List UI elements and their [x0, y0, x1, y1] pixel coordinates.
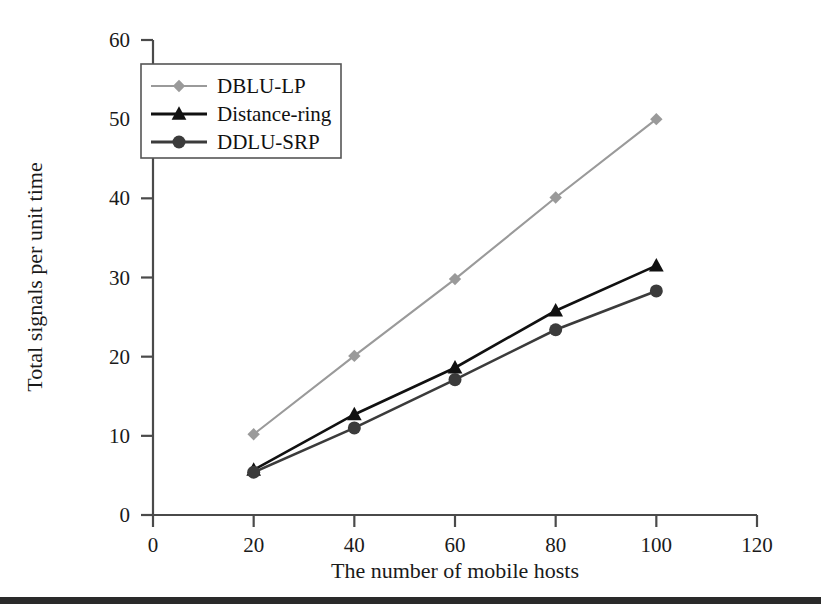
x-axis-title: The number of mobile hosts	[331, 558, 579, 583]
legend-label: Distance-ring	[217, 102, 332, 126]
y-axis-title: Total signals per unit time	[22, 162, 47, 391]
y-tick-label: 10	[109, 424, 130, 448]
x-tick-label: 40	[344, 533, 365, 557]
y-tick-label: 40	[109, 186, 130, 210]
data-point-marker	[348, 421, 361, 434]
x-tick-label: 20	[243, 533, 264, 557]
legend-marker-circle-icon	[172, 135, 185, 148]
chart-legend: DBLU-LPDistance-ringDDLU-SRP	[141, 64, 341, 158]
data-point-marker	[549, 323, 562, 336]
x-axis-ticks: 020406080100120	[148, 515, 773, 557]
data-point-marker	[448, 373, 461, 386]
series-dblu-lp	[247, 113, 662, 440]
y-tick-label: 20	[109, 345, 130, 369]
data-point-marker	[448, 360, 463, 374]
series-distance-ring	[246, 258, 663, 476]
y-tick-label: 30	[109, 266, 130, 290]
legend-label: DDLU-SRP	[217, 130, 320, 154]
y-tick-label: 0	[120, 503, 131, 527]
data-point-marker	[247, 466, 260, 479]
x-tick-label: 120	[741, 533, 773, 557]
line-chart: 0102030405060 020406080100120 DBLU-LPDis…	[0, 0, 821, 585]
figure-container: 0102030405060 020406080100120 DBLU-LPDis…	[0, 0, 821, 615]
series-ddlu-srp	[247, 284, 663, 478]
y-tick-label: 60	[109, 28, 130, 52]
x-tick-label: 80	[545, 533, 566, 557]
x-tick-label: 60	[445, 533, 466, 557]
data-point-marker	[650, 284, 663, 297]
legend-label: DBLU-LP	[217, 74, 306, 98]
data-point-marker	[649, 258, 664, 272]
x-tick-label: 100	[641, 533, 673, 557]
data-series-layer	[246, 113, 663, 479]
x-tick-label: 0	[148, 533, 159, 557]
footer-bar	[0, 597, 821, 604]
y-tick-label: 50	[109, 107, 130, 131]
